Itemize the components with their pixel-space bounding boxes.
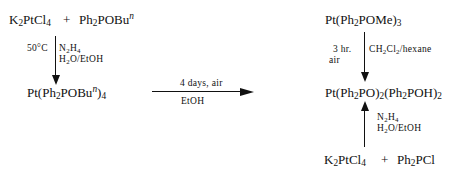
arrow-down-right-head — [361, 72, 369, 82]
subscript: 4 — [101, 91, 106, 101]
reactant-ph2pobu: Ph2POBun — [79, 12, 134, 28]
condition-air-right: air — [329, 55, 340, 65]
product-pt-ph2pobu4: Pt(Ph2POBun)4 — [27, 85, 106, 101]
reactant-k2ptcl4-right: K2PtCl4 — [324, 152, 366, 168]
text: (Ph — [384, 85, 402, 100]
condition-hydrazine-left: N2H4 — [59, 43, 81, 53]
text: Pt(Ph — [325, 85, 354, 100]
text: POBu — [97, 12, 129, 27]
text: Ph — [397, 152, 411, 167]
condition-3-hr: 3 hr. — [333, 44, 351, 54]
text: O/EtOH — [388, 123, 421, 133]
text: K — [9, 12, 18, 27]
arrow-down-left-head — [52, 75, 60, 85]
condition-temperature: 50°C — [27, 43, 48, 53]
text: POBu — [61, 85, 93, 100]
text: /hexane — [400, 44, 432, 54]
text: CH — [369, 44, 383, 54]
condition-ch2cl2-hexane: CH2Cl2/hexane — [369, 44, 431, 54]
arrow-right-shaft — [152, 91, 242, 92]
text: O/EtOH — [70, 54, 103, 64]
text: POH) — [407, 85, 437, 100]
arrow-up-right-shaft — [364, 110, 365, 147]
text: Pt(Ph — [27, 85, 56, 100]
text: H — [70, 43, 77, 53]
arrow-right-head — [240, 88, 254, 96]
reactant-k2ptcl4-left: K2PtCl4 — [9, 12, 51, 28]
text: PtCl — [23, 12, 46, 27]
condition-etoh-middle: EtOH — [181, 96, 204, 106]
plus-sign-right: + — [381, 152, 388, 168]
reactant-ph2pcl: Ph2PCl — [397, 152, 435, 168]
subscript: 4 — [361, 158, 366, 168]
text: Cl — [387, 44, 397, 54]
text: PCl — [415, 152, 435, 167]
text: K — [324, 152, 333, 167]
text: PO) — [359, 85, 380, 100]
plus-sign-left: + — [63, 12, 70, 28]
text: Ph — [79, 12, 93, 27]
text: H — [388, 112, 395, 122]
condition-4-days-air: 4 days, air — [180, 78, 223, 88]
arrow-down-left-shaft — [55, 36, 56, 76]
arrow-down-right-shaft — [364, 32, 365, 74]
condition-solvent-left: H2O/EtOH — [59, 54, 103, 64]
superscript: n — [129, 11, 134, 21]
text: PtCl — [338, 152, 361, 167]
subscript: 4 — [46, 18, 51, 28]
subscript: 2 — [437, 91, 442, 101]
condition-hydrazine-right: N2H4 — [377, 112, 399, 122]
subscript: 3 — [397, 18, 402, 28]
subscript: 4 — [395, 116, 399, 123]
text: POMe) — [359, 12, 397, 27]
reactant-pt-ph2pome3: Pt(Ph2POMe)3 — [325, 12, 402, 28]
product-pt-ph2po2-ph2poh2: Pt(Ph2PO)2(Ph2POH)2 — [325, 85, 442, 101]
subscript: 4 — [77, 47, 81, 54]
condition-solvent-right: H2O/EtOH — [377, 123, 421, 133]
text: Pt(Ph — [325, 12, 354, 27]
